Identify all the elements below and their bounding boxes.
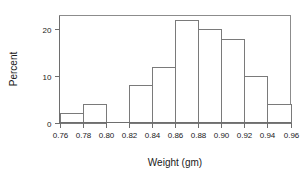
x-tick-label: 0.86 bbox=[168, 131, 184, 140]
histogram-bar bbox=[222, 40, 245, 124]
histogram-bar bbox=[199, 30, 222, 124]
histogram-screenshot: 01020 0.760.780.800.820.840.860.880.900.… bbox=[0, 0, 307, 176]
x-tick-label: 0.78 bbox=[76, 131, 92, 140]
x-axis-title: Weight (gm) bbox=[148, 157, 202, 168]
x-ticks-group: 0.760.780.800.820.840.860.880.900.920.94… bbox=[53, 123, 300, 140]
y-tick-label: 10 bbox=[43, 73, 52, 82]
histogram-bar bbox=[268, 105, 292, 124]
y-ticks-group: 01020 bbox=[43, 26, 60, 129]
histogram-chart: 01020 0.760.780.800.820.840.860.880.900.… bbox=[0, 0, 307, 176]
x-tick-label: 0.96 bbox=[284, 131, 300, 140]
histogram-bar bbox=[84, 105, 107, 124]
histogram-bar bbox=[176, 21, 199, 124]
x-tick-label: 0.82 bbox=[122, 131, 138, 140]
x-tick-label: 0.90 bbox=[214, 131, 230, 140]
histogram-bar bbox=[153, 68, 176, 124]
x-tick-label: 0.84 bbox=[145, 131, 161, 140]
x-tick-label: 0.80 bbox=[99, 131, 115, 140]
x-tick-label: 0.92 bbox=[237, 131, 253, 140]
x-tick-label: 0.94 bbox=[260, 131, 276, 140]
histogram-bar bbox=[245, 77, 268, 124]
histogram-bar bbox=[130, 86, 153, 124]
y-tick-label: 0 bbox=[47, 120, 52, 129]
x-axis: 0.760.780.800.820.840.860.880.900.920.94… bbox=[53, 123, 300, 140]
y-tick-label: 20 bbox=[43, 26, 52, 35]
x-tick-label: 0.76 bbox=[53, 131, 69, 140]
y-axis-title: Percent bbox=[8, 52, 19, 87]
y-axis: 01020 bbox=[43, 16, 60, 129]
bars-group bbox=[61, 21, 292, 124]
x-tick-label: 0.88 bbox=[191, 131, 207, 140]
